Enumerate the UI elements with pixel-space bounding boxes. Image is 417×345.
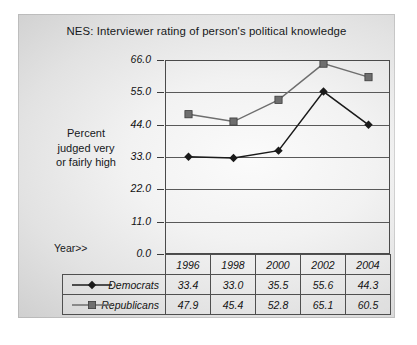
y-axis-tick-mark: [157, 222, 164, 223]
table-column-header: 2002: [301, 255, 346, 275]
y-axis-tick-label: 33.0: [107, 150, 151, 162]
table-column-header: 2000: [256, 255, 301, 275]
table-cell: 33.4: [166, 275, 211, 295]
table-cell: 52.8: [256, 295, 301, 315]
y-axis-tick-label: 11.0: [107, 215, 151, 227]
table-cell: 33.0: [211, 275, 256, 295]
table-corner-cell: [63, 255, 166, 275]
table-row: Democrats33.433.035.555.644.3: [63, 275, 391, 295]
x-axis-label: Year>>: [54, 242, 87, 254]
table-cell: 45.4: [211, 295, 256, 315]
chart-title: NES: Interviewer rating of person's poli…: [18, 14, 395, 48]
plot-area: [165, 60, 390, 254]
table-cell: 44.3: [346, 275, 391, 295]
y-axis-tick-mark: [157, 157, 164, 158]
series-republicans: [185, 61, 372, 125]
y-axis-tick-mark: [157, 125, 164, 126]
table-column-header: 1998: [211, 255, 256, 275]
table-cell: 65.1: [301, 295, 346, 315]
table-row: Republicans47.945.452.865.160.5: [63, 295, 391, 315]
y-axis-tick-mark: [157, 189, 164, 190]
y-axis-tick-label: 66.0: [107, 53, 151, 65]
y-axis-tick-mark: [157, 60, 164, 61]
table-cell: 55.6: [301, 275, 346, 295]
legend-entry-democrats[interactable]: Democrats: [63, 275, 166, 295]
legend-diamond-icon: [71, 280, 113, 290]
legend-entry-republicans[interactable]: Republicans: [63, 295, 166, 315]
chart-figure: NES: Interviewer rating of person's poli…: [0, 0, 417, 345]
y-axis-tick-mark: [157, 92, 164, 93]
table-column-header: 2004: [346, 255, 391, 275]
y-axis-tick-label: 44.0: [107, 118, 151, 130]
y-axis-tick-label: 55.0: [107, 85, 151, 97]
table-cell: 60.5: [346, 295, 391, 315]
series-lines: [166, 61, 389, 253]
y-axis-label: Percent judged very or fairly high: [40, 126, 132, 170]
table-cell: 47.9: [166, 295, 211, 315]
legend-square-icon: [71, 300, 113, 310]
table-cell: 35.5: [256, 275, 301, 295]
data-table: 19961998200020022004Democrats33.433.035.…: [62, 254, 391, 315]
table-column-header: 1996: [166, 255, 211, 275]
y-axis-tick-label: 22.0: [107, 182, 151, 194]
table-header-row: 19961998200020022004: [63, 255, 391, 275]
